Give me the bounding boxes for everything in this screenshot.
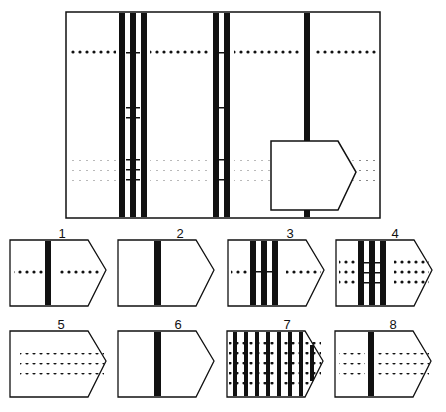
option-8-label: 8: [383, 317, 403, 332]
option-2[interactable]: [118, 240, 214, 306]
option-5-label: 5: [51, 317, 71, 332]
option-8[interactable]: [335, 331, 431, 397]
puzzle-canvas: [0, 0, 446, 412]
option-1[interactable]: [10, 240, 106, 306]
option-7-label: 7: [277, 317, 297, 332]
option-7[interactable]: [227, 331, 323, 397]
option-4-label: 4: [385, 226, 405, 241]
option-1-label: 1: [52, 226, 72, 241]
option-3-label: 3: [280, 226, 300, 241]
option-6[interactable]: [118, 331, 214, 397]
main-matrix: [66, 12, 380, 218]
missing-piece-slot: [271, 141, 356, 210]
option-6-label: 6: [168, 317, 188, 332]
option-5[interactable]: [10, 331, 106, 397]
option-2-label: 2: [170, 226, 190, 241]
option-4[interactable]: [336, 240, 432, 306]
option-3[interactable]: [228, 240, 324, 306]
